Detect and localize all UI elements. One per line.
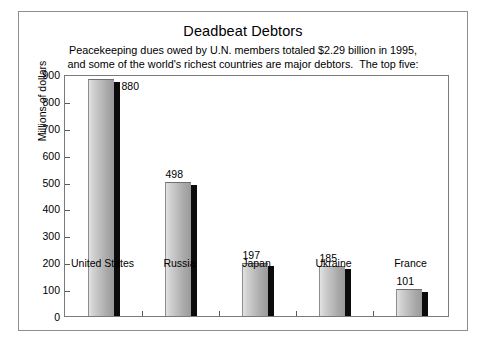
x-axis-tick-mark bbox=[142, 311, 143, 316]
y-axis-tick-mark bbox=[65, 184, 70, 185]
bar-shadow bbox=[114, 82, 120, 316]
y-axis-tick-mark bbox=[65, 210, 70, 211]
chart-title: Deadbeat Debtors bbox=[19, 23, 467, 39]
chart-figure: Deadbeat Debtors Peacekeeping dues owed … bbox=[18, 11, 468, 331]
y-axis-tick-mark bbox=[65, 157, 70, 158]
x-axis-category-label: France bbox=[351, 257, 471, 269]
chart-subtitle-line-2: and some of the world's richest countrie… bbox=[19, 58, 467, 72]
bar: 185 bbox=[319, 266, 351, 316]
x-axis-tick-mark bbox=[296, 311, 297, 316]
bar-shadow bbox=[268, 266, 274, 316]
y-axis-tick-mark bbox=[65, 103, 70, 104]
bar-shadow bbox=[345, 269, 351, 316]
y-axis-tick-label: 700 bbox=[42, 123, 60, 135]
bar-fill bbox=[88, 79, 114, 316]
y-axis-tick-label: 400 bbox=[42, 203, 60, 215]
bar: 101 bbox=[396, 289, 428, 316]
bar-value-label: 880 bbox=[122, 80, 140, 92]
y-axis-tick-mark bbox=[65, 130, 70, 131]
bar: 498 bbox=[165, 182, 197, 316]
bar-shadow bbox=[191, 185, 197, 316]
bar-fill bbox=[396, 289, 422, 316]
bar-shadow bbox=[422, 292, 428, 316]
plot-area: 9008007006005004003002001000 88049819718… bbox=[64, 75, 449, 317]
bar: 197 bbox=[242, 263, 274, 316]
chart-subtitle: Peacekeeping dues owed by U.N. members t… bbox=[19, 44, 467, 71]
y-axis-tick-label: 900 bbox=[42, 69, 60, 81]
bar: 880 bbox=[88, 79, 120, 316]
y-axis-tick-label: 0 bbox=[54, 311, 60, 323]
chart-subtitle-line-1: Peacekeeping dues owed by U.N. members t… bbox=[19, 44, 467, 58]
x-axis-tick-mark bbox=[219, 311, 220, 316]
y-axis-tick-mark bbox=[65, 237, 70, 238]
y-axis-tick-label: 100 bbox=[42, 284, 60, 296]
x-axis-tick-mark bbox=[373, 311, 374, 316]
bar-fill bbox=[242, 263, 268, 316]
bar-value-label: 101 bbox=[397, 275, 415, 287]
y-axis-tick-label: 300 bbox=[42, 230, 60, 242]
y-axis-tick-mark bbox=[65, 291, 70, 292]
bar-fill bbox=[319, 266, 345, 316]
bar-value-label: 498 bbox=[166, 168, 184, 180]
bar-fill bbox=[165, 182, 191, 316]
y-axis-tick-label: 500 bbox=[42, 177, 60, 189]
y-axis-tick-label: 600 bbox=[42, 150, 60, 162]
y-axis-tick-label: 800 bbox=[42, 96, 60, 108]
